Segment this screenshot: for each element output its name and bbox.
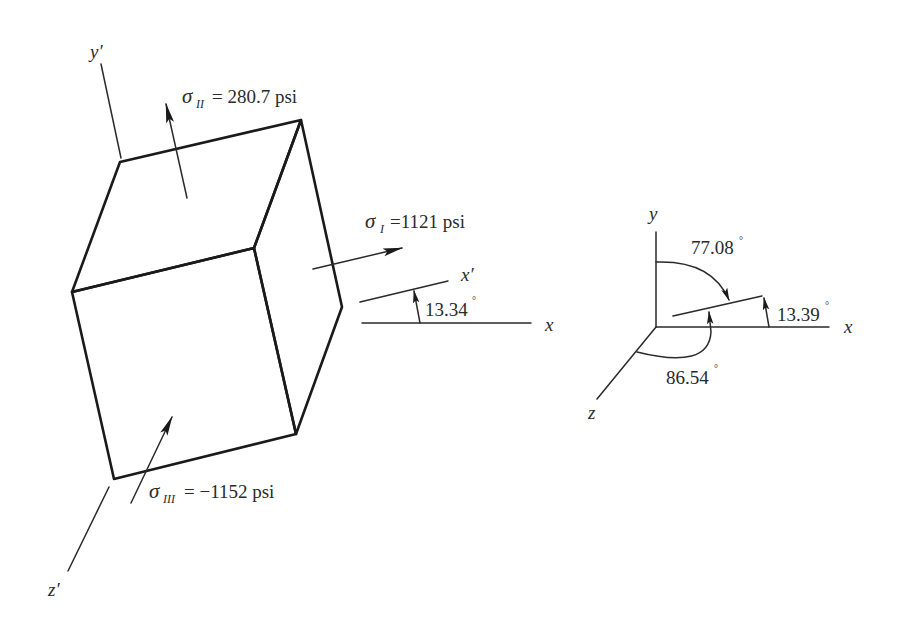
angle-86-degree: °	[714, 363, 718, 374]
sigma-i-symbol: σ	[365, 209, 377, 233]
sigma-i-arrow	[313, 248, 402, 269]
orient-x-label: x	[843, 316, 853, 337]
angle-arc-77	[656, 262, 729, 300]
sigma-ii-symbol: σ	[182, 84, 194, 108]
angle-77-value: 77.08	[691, 237, 734, 258]
angle-arrow-13	[764, 298, 769, 327]
sigma-i-value: =1121 psi	[390, 211, 465, 232]
angle-77-degree: °	[739, 235, 743, 246]
angle-label-86: 86.54 °	[666, 363, 718, 388]
orient-z-axis	[597, 327, 656, 399]
rotation-angle-value: 13.34	[425, 299, 468, 320]
sigma-ii-label: σ II = 280.7 psi	[182, 84, 297, 111]
orientation-diagram: y x z 77.08 ° 13.39 ° 86.54 °	[587, 203, 853, 423]
angle-label-13: 13.39 °	[777, 300, 829, 325]
rotation-angle-arrow	[414, 291, 420, 323]
z-prime-axis-line	[68, 487, 109, 571]
orient-y-label: y	[647, 203, 658, 224]
rotation-angle-label: 13.34 °	[425, 295, 476, 320]
cube-right-face	[254, 120, 342, 434]
x-prime-axis-label: x′	[460, 264, 474, 285]
orient-z-label: z	[587, 402, 596, 423]
y-prime-axis-label: y′	[88, 41, 103, 62]
angle-86-value: 86.54	[666, 367, 709, 388]
cube-top-face	[72, 120, 301, 292]
sigma-ii-subscript: II	[195, 97, 205, 111]
z-prime-axis-label: z′	[47, 579, 60, 600]
sigma-i-subscript: I	[379, 222, 385, 236]
angle-13-degree: °	[825, 300, 829, 311]
principal-direction-line	[673, 296, 762, 316]
sigma-iii-value: = −1152 psi	[184, 481, 274, 502]
y-prime-axis-line	[101, 64, 121, 158]
x-axis-label: x	[544, 314, 554, 335]
angle-13-value: 13.39	[777, 304, 820, 325]
stress-diagram-figure: y′ z′ σ II = 280.7 psi σ I =1121 psi σ I…	[0, 0, 897, 631]
rotation-angle-degree: °	[472, 295, 476, 306]
stress-cube	[72, 120, 342, 479]
sigma-iii-symbol: σ	[149, 479, 161, 503]
sigma-ii-value: = 280.7 psi	[212, 86, 297, 107]
angle-arc-86	[637, 312, 711, 358]
sigma-iii-subscript: III	[162, 492, 176, 506]
diagram-canvas: y′ z′ σ II = 280.7 psi σ I =1121 psi σ I…	[0, 0, 897, 631]
sigma-iii-label: σ III = −1152 psi	[149, 479, 274, 506]
angle-label-77: 77.08 °	[691, 235, 743, 258]
sigma-i-label: σ I =1121 psi	[365, 209, 465, 236]
